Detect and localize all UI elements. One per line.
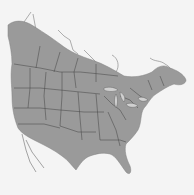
range-area <box>8 21 186 173</box>
north-america-map <box>0 0 194 195</box>
range-map <box>0 0 194 195</box>
